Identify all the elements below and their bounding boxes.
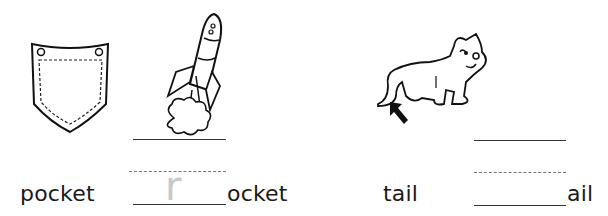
writing-top-line <box>133 139 226 140</box>
writing-answer-blank-2[interactable] <box>474 205 566 206</box>
pocket-icon <box>28 40 114 136</box>
word-suffix-ail: ail <box>567 183 593 205</box>
pocket-illustration <box>28 40 114 136</box>
word-pocket: pocket <box>20 183 95 205</box>
word-suffix-ocket: ocket <box>227 183 288 205</box>
trace-letter: r <box>165 166 181 206</box>
word-tail: tail <box>383 183 418 205</box>
writing-mid-dashed-line-2 <box>474 172 566 173</box>
rocket-icon <box>152 10 232 138</box>
arrow-illustration <box>388 100 412 126</box>
arrow-up-left-icon <box>388 100 412 126</box>
rocket-illustration <box>152 10 232 138</box>
writing-top-line-2 <box>474 140 566 141</box>
